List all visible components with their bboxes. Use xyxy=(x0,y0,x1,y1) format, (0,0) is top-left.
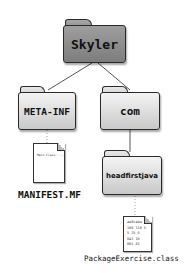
file-label-manifest: MANIFEST.MF xyxy=(18,189,81,200)
folder-meta-inf: META-INF xyxy=(18,86,76,130)
file-class-icon: ae8c4da 100 110 5 5 25 6 043 10 001 01 xyxy=(123,216,152,252)
folder-body: headfirstjava xyxy=(102,156,162,195)
folder-body: com xyxy=(100,92,160,130)
page-fold xyxy=(57,143,65,151)
folder-label-skyler: Skyler xyxy=(71,37,118,52)
folder-skyler: Skyler xyxy=(63,19,126,63)
folder-label-headfirstjava: headfirstjava xyxy=(106,172,158,180)
folder-com: com xyxy=(100,86,160,130)
manifest-content: Main-Class: ... xyxy=(37,153,64,158)
folder-body: Skyler xyxy=(63,25,126,63)
folder-label-com: com xyxy=(120,105,140,118)
folder-label-meta-inf: META-INF xyxy=(24,106,70,117)
class-content: ae8c4da 100 110 5 5 25 6 043 10 001 01 xyxy=(127,220,146,248)
folder-headfirstjava: headfirstjava xyxy=(102,150,162,195)
file-label-package-exercise: PackageExercise.class xyxy=(84,254,179,263)
file-manifest-icon: Main-Class: ... xyxy=(33,143,65,183)
folder-body: META-INF xyxy=(18,92,76,130)
